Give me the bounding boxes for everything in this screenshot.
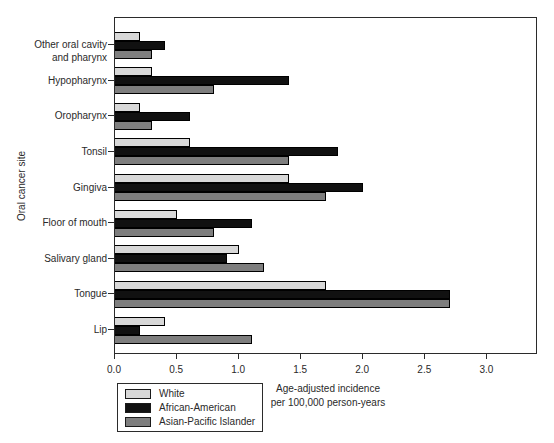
x-tick-label-1: 1.0 [223,364,253,375]
x-axis-title-line2: per 100,000 person-years [252,396,404,410]
category-label-floor-of-mouth: Floor of mouth [29,216,107,229]
x-tick-label-2.5: 2.5 [409,364,439,375]
x-axis-title: Age-adjusted incidence per 100,000 perso… [252,382,404,409]
bar-oropharynx-asian-pacific-islander [115,121,152,130]
y-tick-salivary-gland [108,258,114,259]
x-tick-label-1.5: 1.5 [285,364,315,375]
legend-item-asian-pacific-islander: Asian-Pacific Islander [125,416,255,427]
x-axis-title-line1: Age-adjusted incidence [252,382,404,396]
legend-swatch-asian-pacific-islander [125,417,151,427]
bar-hypopharynx-white [115,67,152,76]
bar-floor-of-mouth-white [115,210,177,219]
bar-tonsil-white [115,138,190,147]
bar-other-oral-cavity-and-pharynx-african-american [115,41,165,50]
category-label-oropharynx: Oropharynx [29,109,107,122]
bar-oropharynx-white [115,103,140,112]
legend-item-african-american: African-American [125,402,255,413]
x-tick-label-0.5: 0.5 [161,364,191,375]
legend: WhiteAfrican-AmericanAsian-Pacific Islan… [117,383,263,432]
y-tick-tonsil [108,151,114,152]
x-tick-1 [238,354,239,359]
category-label-tongue: Tongue [29,287,107,300]
category-label-lip: Lip [29,323,107,336]
bar-hypopharynx-asian-pacific-islander [115,85,214,94]
y-tick-other-oral-cavity-and-pharynx [108,44,114,45]
legend-label-white: White [159,388,185,399]
y-tick-gingiva [108,187,114,188]
bar-other-oral-cavity-and-pharynx-white [115,32,140,41]
legend-label-asian-pacific-islander: Asian-Pacific Islander [159,416,255,427]
bar-gingiva-african-american [115,183,363,192]
y-axis-title: Oral cancer site [16,151,27,221]
bar-oropharynx-african-american [115,112,190,121]
x-tick-2 [362,354,363,359]
bar-gingiva-asian-pacific-islander [115,192,326,201]
bar-salivary-gland-asian-pacific-islander [115,263,264,272]
x-tick-3 [486,354,487,359]
category-label-hypopharynx: Hypopharynx [29,73,107,86]
bar-floor-of-mouth-african-american [115,219,252,228]
x-tick-0.5 [176,354,177,359]
plot-area [114,17,537,354]
bar-tongue-white [115,281,326,290]
bar-tongue-asian-pacific-islander [115,299,450,308]
legend-swatch-african-american [125,403,151,413]
x-tick-label-0: 0.0 [99,364,129,375]
category-label-tonsil: Tonsil [29,144,107,157]
bar-lip-asian-pacific-islander [115,335,252,344]
bar-salivary-gland-white [115,245,239,254]
y-tick-floor-of-mouth [108,222,114,223]
x-tick-1.5 [300,354,301,359]
bar-other-oral-cavity-and-pharynx-asian-pacific-islander [115,50,152,59]
bar-salivary-gland-african-american [115,254,227,263]
bar-lip-african-american [115,326,140,335]
y-tick-oropharynx [108,115,114,116]
y-tick-lip [108,329,114,330]
category-label-other-oral-cavity-and-pharynx: Other oral cavity and pharynx [29,38,107,64]
oral-cancer-incidence-bar-chart: Oral cancer site Age-adjusted incidence … [0,0,554,443]
x-tick-label-2: 2.0 [347,364,377,375]
bar-tonsil-african-american [115,147,338,156]
category-label-gingiva: Gingiva [29,180,107,193]
bar-floor-of-mouth-asian-pacific-islander [115,228,214,237]
bar-tongue-african-american [115,290,450,299]
legend-item-white: White [125,388,255,399]
x-tick-label-3: 3.0 [471,364,501,375]
bar-hypopharynx-african-american [115,76,289,85]
legend-label-african-american: African-American [159,402,236,413]
category-label-salivary-gland: Salivary gland [29,251,107,264]
bar-gingiva-white [115,174,289,183]
y-tick-tongue [108,293,114,294]
x-tick-2.5 [424,354,425,359]
bar-tonsil-asian-pacific-islander [115,156,289,165]
y-tick-hypopharynx [108,80,114,81]
legend-swatch-white [125,389,151,399]
bar-lip-white [115,317,165,326]
x-tick-0 [114,354,115,359]
